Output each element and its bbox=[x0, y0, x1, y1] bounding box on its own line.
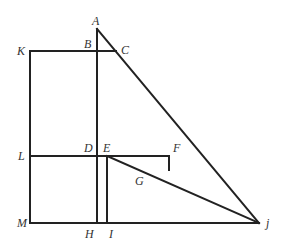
segments bbox=[30, 29, 259, 223]
label-l: L bbox=[17, 149, 25, 163]
label-a: A bbox=[91, 14, 100, 28]
label-k: K bbox=[16, 44, 26, 58]
label-e: E bbox=[102, 141, 111, 155]
label-f: F bbox=[172, 141, 181, 155]
label-c: C bbox=[121, 43, 130, 57]
label-j: j bbox=[264, 216, 270, 230]
geometry-diagram: A B C K L D E F G M H I j bbox=[0, 0, 287, 244]
label-b: B bbox=[84, 37, 92, 51]
label-m: M bbox=[16, 216, 28, 230]
segment-e-j bbox=[107, 156, 259, 223]
label-h: H bbox=[84, 227, 95, 241]
segment-a-j bbox=[97, 29, 259, 223]
point-labels: A B C K L D E F G M H I j bbox=[16, 14, 270, 241]
label-d: D bbox=[83, 141, 93, 155]
label-g: G bbox=[135, 174, 144, 188]
label-i: I bbox=[108, 227, 114, 241]
